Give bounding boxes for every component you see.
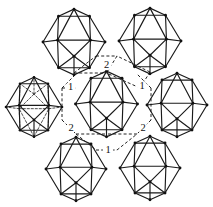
cluster-vertex: [164, 165, 167, 168]
cluster-vertex: [132, 38, 135, 41]
cluster-vertex: [105, 168, 108, 171]
cluster-vertex: [60, 143, 63, 146]
cluster-vertex: [105, 135, 108, 138]
cluster-vertex: [73, 73, 76, 76]
cluster-vertex: [45, 168, 48, 171]
cluster-vertex: [59, 166, 62, 169]
cluster-vertex: [47, 82, 50, 85]
cluster-vertex: [176, 72, 179, 75]
cluster-vertex: [75, 181, 78, 184]
cluster-vertex: [5, 106, 8, 109]
cluster-vertex: [121, 77, 124, 80]
cluster-vertex: [118, 40, 121, 43]
cluster-vertex: [57, 15, 60, 18]
cluster-vertex: [75, 136, 78, 139]
cluster-vertex: [180, 40, 183, 43]
cluster-vertex: [90, 166, 93, 169]
cluster-vertex: [134, 142, 137, 145]
cluster-vertex: [149, 135, 152, 138]
cluster-vertex: [176, 135, 179, 138]
cluster-vertex: [33, 135, 36, 138]
cluster-vertex: [90, 143, 93, 146]
cluster-vertex: [165, 38, 168, 41]
cluster-vertex: [90, 77, 93, 80]
cluster-vertex: [149, 180, 152, 183]
cluster-vertex: [149, 54, 152, 57]
cluster-vertex: [149, 198, 152, 201]
cluster-vertex: [179, 167, 182, 170]
cluster-vertex: [105, 117, 108, 120]
cluster-vertex: [75, 199, 78, 202]
label-top-center: 2: [104, 59, 109, 70]
label-bottom-center: 1: [105, 144, 110, 155]
cluster-vertex: [19, 129, 22, 132]
cluster-vertex: [164, 65, 167, 68]
cluster-vertex: [18, 104, 21, 107]
cluster-vertex: [33, 76, 36, 79]
cluster-vertex: [136, 103, 139, 106]
cluster-vertex: [191, 128, 194, 131]
cluster-vertex: [121, 128, 124, 131]
cluster-vertex: [89, 101, 92, 104]
cluster-vertex: [88, 15, 91, 18]
cluster-vertex: [146, 104, 149, 107]
cluster-vertex: [149, 7, 152, 10]
label-upper-left: 1: [68, 81, 73, 92]
cluster-vertex: [88, 66, 91, 69]
cluster-vertex: [206, 104, 209, 107]
cluster-vertex: [56, 39, 59, 42]
cluster-vertex: [191, 79, 194, 82]
cluster-vertex: [74, 103, 77, 106]
cluster-vertex: [133, 165, 136, 168]
cluster-vertex: [60, 192, 63, 195]
cluster-vertex: [133, 14, 136, 17]
cluster-vertex: [47, 129, 50, 132]
label-upper-right: 1: [139, 80, 144, 91]
cluster-vertex: [33, 119, 36, 122]
icosahedral-cluster-diagram: 211221: [0, 0, 213, 207]
cluster-vertex: [133, 65, 136, 68]
cluster-vertex: [161, 128, 164, 131]
cluster-vertex: [119, 167, 122, 170]
cluster-vertex: [104, 41, 107, 44]
cluster-vertex: [164, 191, 167, 194]
cluster-vertex: [161, 79, 164, 82]
label-lower-left: 2: [68, 122, 73, 133]
cluster-vertex: [134, 191, 137, 194]
cluster-vertex: [121, 101, 124, 104]
cluster-vertex: [89, 39, 92, 42]
cluster-vertex: [73, 55, 76, 58]
cluster-vertex: [90, 128, 93, 131]
cluster-vertex: [19, 82, 22, 85]
cluster-vertex: [164, 142, 167, 145]
cluster-vertex: [90, 192, 93, 195]
label-lower-right: 2: [140, 122, 145, 133]
cluster-vertex: [164, 14, 167, 17]
cluster-vertex: [191, 102, 194, 105]
cluster-vertex: [42, 41, 45, 44]
cluster-vertex: [73, 8, 76, 11]
cluster-vertex: [57, 66, 60, 69]
cluster-vertex: [61, 106, 64, 109]
cluster-vertex: [176, 117, 179, 120]
cluster-vertex: [149, 72, 152, 75]
cluster-vertex: [48, 104, 51, 107]
cluster-vertex: [160, 102, 163, 105]
